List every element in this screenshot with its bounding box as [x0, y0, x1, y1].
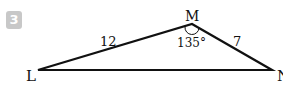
vertex-label-l: L — [26, 67, 36, 85]
side-label-mn: 7 — [233, 34, 241, 49]
triangle-diagram: L M N 12 7 135° — [0, 0, 283, 94]
vertex-label-m: M — [185, 8, 199, 24]
angle-arc-m — [185, 27, 199, 35]
side-label-lm: 12 — [100, 34, 117, 49]
angle-label-m: 135° — [177, 36, 206, 50]
vertex-label-n: N — [277, 67, 283, 85]
